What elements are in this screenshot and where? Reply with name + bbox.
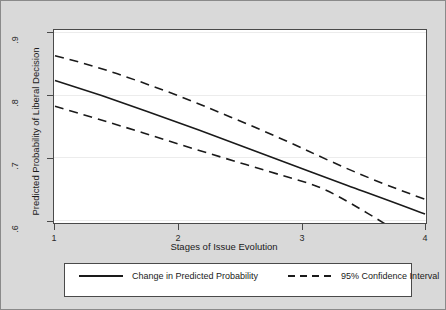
chart-canvas: .9 .8 .7 .6 1 2 3 4 Predicted Probabilit…: [0, 0, 446, 310]
plot-area: [53, 29, 427, 224]
x-axis-title: Stages of Issue Evolution: [1, 241, 446, 252]
solid-line-swatch-icon: [79, 271, 123, 281]
predicted-probability-line: [55, 80, 425, 214]
gridlines: [54, 33, 426, 220]
x-tick-mark-1: [54, 224, 55, 230]
legend: Change in Predicted Probability 95% Conf…: [64, 263, 412, 297]
dashed-line-swatch-icon: [288, 271, 332, 281]
y-axis-title: Predicted Probability of Liberal Decisio…: [30, 32, 41, 232]
upper-confidence-bound-line: [55, 56, 425, 200]
y-tick-label-8: .8: [10, 94, 20, 112]
legend-label-predicted-probability: Change in Predicted Probability: [132, 271, 258, 281]
legend-entry-confidence-interval: 95% Confidence Interval: [288, 271, 439, 281]
x-tick-mark-3: [302, 224, 303, 230]
legend-row: Change in Predicted Probability 95% Conf…: [65, 271, 411, 281]
legend-label-confidence-interval: 95% Confidence Interval: [341, 271, 439, 281]
series-group: [55, 56, 425, 223]
lower-confidence-bound-line: [55, 106, 425, 223]
y-tick-label-6: .6: [10, 220, 20, 238]
x-tick-mark-4: [425, 224, 426, 230]
plot-svg: [54, 30, 426, 223]
x-tick-mark-2: [178, 224, 179, 230]
legend-entry-predicted-probability: Change in Predicted Probability: [79, 271, 258, 281]
y-tick-label-9: .9: [10, 31, 20, 49]
y-tick-label-7: .7: [10, 157, 20, 175]
